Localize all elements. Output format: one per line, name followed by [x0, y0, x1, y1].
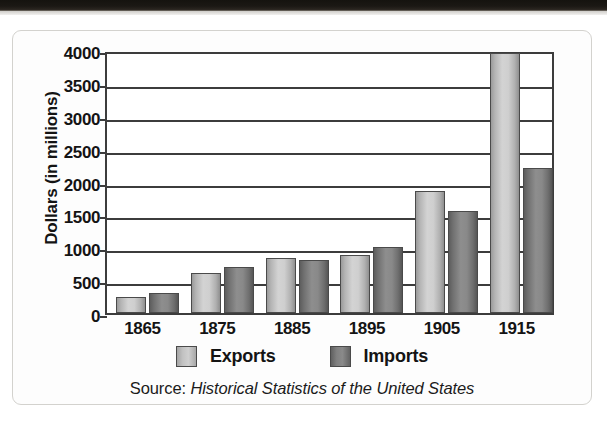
imports-swatch — [330, 346, 351, 367]
y-axis-tick-label: 1500 — [21, 208, 107, 228]
y-axis-tick-label: 2000 — [21, 175, 107, 195]
page-edge-band — [0, 0, 607, 11]
bar-imports-1895[interactable] — [373, 247, 403, 313]
bar-chart: Dollars (in millions) 050010001500200025… — [12, 30, 592, 405]
source-prefix: Source: — [130, 379, 186, 397]
y-axis-tick-label: 0 — [21, 307, 107, 327]
plot-area: 05001000150020002500300035004000 — [105, 52, 554, 315]
bar-exports-1875[interactable] — [191, 273, 221, 313]
bar-group — [415, 54, 478, 313]
bar-imports-1865[interactable] — [149, 293, 179, 313]
y-axis-tick-label: 4000 — [21, 44, 107, 64]
chart-screenshot: Dollars (in millions) 050010001500200025… — [0, 0, 607, 421]
bar-exports-1915[interactable] — [490, 53, 520, 313]
source-note: Source: Historical Statistics of the Uni… — [12, 379, 592, 398]
legend-item-imports[interactable]: Imports — [330, 346, 429, 367]
bar-exports-1885[interactable] — [266, 258, 296, 313]
bar-imports-1915[interactable] — [523, 168, 553, 313]
legend-label: Exports — [210, 346, 276, 367]
bar-exports-1865[interactable] — [116, 297, 146, 313]
y-axis-title: Dollars (in millions) — [42, 68, 62, 268]
page-edge-shadow — [0, 11, 607, 15]
x-axis-tick-label-1915: 1915 — [472, 319, 562, 339]
bar-imports-1875[interactable] — [224, 267, 254, 313]
bar-exports-1895[interactable] — [340, 255, 370, 313]
source-title: Historical Statistics of the United Stat… — [190, 379, 474, 397]
y-axis-tick-label: 1000 — [21, 241, 107, 261]
bar-exports-1905[interactable] — [415, 191, 445, 313]
bar-group — [116, 54, 179, 313]
bar-group — [340, 54, 403, 313]
bar-group — [266, 54, 329, 313]
chart-legend: ExportsImports — [12, 346, 592, 367]
legend-item-exports[interactable]: Exports — [176, 346, 276, 367]
y-axis-tick-label: 3000 — [21, 110, 107, 130]
y-axis-tick-label: 500 — [21, 274, 107, 294]
bar-imports-1905[interactable] — [448, 211, 478, 313]
y-axis-tick-label: 2500 — [21, 142, 107, 162]
bar-imports-1885[interactable] — [299, 260, 329, 313]
bar-group — [490, 54, 553, 313]
y-axis-tick-label: 3500 — [21, 77, 107, 97]
bars-layer — [107, 54, 552, 313]
legend-label: Imports — [364, 346, 429, 367]
bar-group — [191, 54, 254, 313]
exports-swatch — [176, 346, 197, 367]
